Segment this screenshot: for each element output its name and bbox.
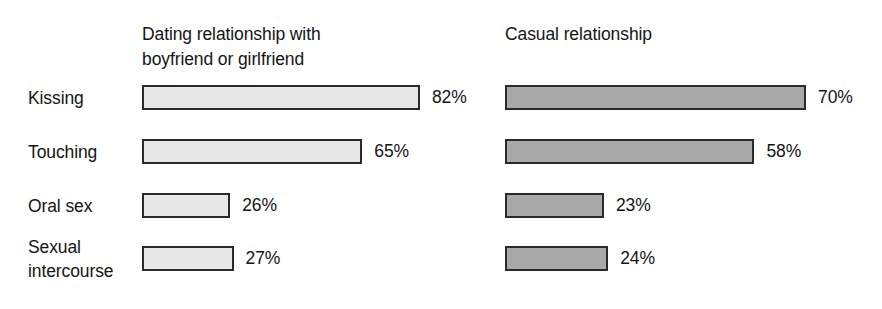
row-label-kissing: Kissing — [28, 86, 84, 110]
bar-value-dating-touching: 65% — [374, 139, 409, 164]
bar-dating-kissing — [142, 85, 420, 110]
group-header-dating-relationship: Dating relationship with boyfriend or gi… — [142, 22, 321, 72]
row-label-sexual-intercourse: Sexual intercourse — [28, 235, 113, 283]
bar-value-casual-sexual-intercourse: 24% — [620, 246, 655, 271]
row-label-touching: Touching — [28, 140, 97, 164]
bar-dating-oral-sex — [142, 193, 230, 218]
bar-value-casual-oral-sex: 23% — [616, 193, 651, 218]
bar-dating-touching — [142, 139, 362, 164]
group-header-casual-relationship: Casual relationship — [505, 22, 652, 47]
row-label-oral-sex: Oral sex — [28, 194, 92, 218]
bar-value-casual-touching: 58% — [766, 139, 801, 164]
bar-casual-kissing — [505, 85, 806, 110]
bar-value-dating-kissing: 82% — [432, 85, 467, 110]
chart-canvas: Dating relationship with boyfriend or gi… — [0, 0, 882, 309]
bar-value-dating-sexual-intercourse: 27% — [246, 246, 281, 271]
bar-casual-touching — [505, 139, 754, 164]
bar-value-casual-kissing: 70% — [818, 85, 853, 110]
bar-dating-sexual-intercourse — [142, 246, 234, 271]
bar-casual-sexual-intercourse — [505, 246, 608, 271]
bar-casual-oral-sex — [505, 193, 604, 218]
bar-value-dating-oral-sex: 26% — [242, 193, 277, 218]
